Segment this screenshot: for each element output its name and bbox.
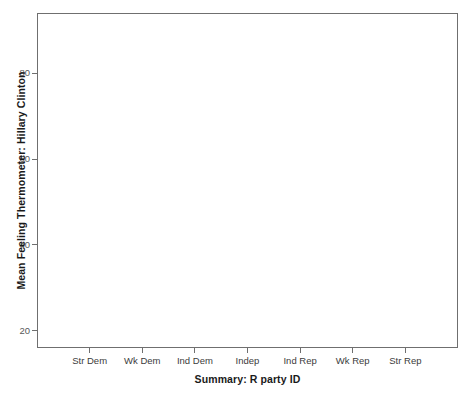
plot-area [37, 13, 458, 348]
x-axis-title: Summary: R party ID [37, 373, 458, 385]
x-tick-mark [300, 348, 301, 353]
y-tick-mark [32, 73, 37, 74]
x-tick-label: Str Rep [365, 355, 445, 366]
x-tick-mark [405, 348, 406, 353]
y-tick-mark [32, 244, 37, 245]
x-tick-mark [247, 348, 248, 353]
chart-container: 80604020 Mean Feeling Thermometer: Hilla… [0, 0, 474, 397]
x-tick-mark [89, 348, 90, 353]
y-axis-title: Mean Feeling Thermometer: Hillary Clinto… [14, 13, 28, 348]
y-tick-mark [32, 330, 37, 331]
x-tick-mark [194, 348, 195, 353]
x-tick-mark [352, 348, 353, 353]
y-tick-mark [32, 159, 37, 160]
x-tick-mark [142, 348, 143, 353]
